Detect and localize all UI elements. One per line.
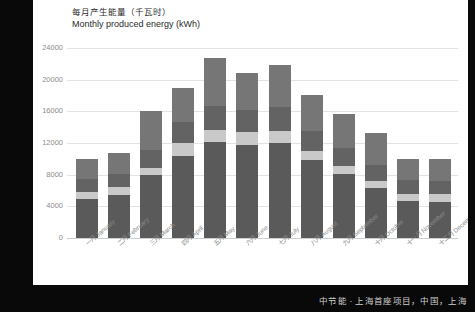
bar-segment bbox=[301, 131, 323, 151]
gridline bbox=[67, 143, 458, 144]
bar-segment bbox=[429, 194, 451, 201]
y-axis-tick-label: 8000 bbox=[33, 170, 63, 179]
gridline bbox=[67, 48, 458, 49]
bar-segment bbox=[397, 159, 419, 180]
bar-segment bbox=[365, 181, 387, 188]
bar-segment bbox=[204, 130, 226, 143]
bar-segment bbox=[365, 165, 387, 181]
bar-segment bbox=[269, 131, 291, 143]
gridline bbox=[67, 111, 458, 112]
bar-segment bbox=[236, 132, 258, 145]
bar-segment bbox=[172, 88, 194, 123]
bar-segment bbox=[140, 175, 162, 238]
bar-segment bbox=[397, 194, 419, 201]
bar-column[interactable] bbox=[172, 88, 194, 238]
bar-segment bbox=[204, 58, 226, 106]
bar-segment bbox=[333, 114, 355, 148]
bar-segment bbox=[301, 151, 323, 161]
bar-segment bbox=[429, 159, 451, 181]
bar-segment bbox=[269, 65, 291, 108]
bar-segment bbox=[301, 95, 323, 131]
bar-segment bbox=[301, 160, 323, 238]
bar-segment bbox=[204, 142, 226, 238]
bar-segment bbox=[397, 180, 419, 193]
bar-column[interactable] bbox=[269, 65, 291, 238]
y-axis-tick-label: 24000 bbox=[33, 43, 63, 52]
bar-segment bbox=[108, 187, 130, 195]
y-axis-tick-label: 16000 bbox=[33, 106, 63, 115]
bar-segment bbox=[429, 181, 451, 194]
bar-segment bbox=[365, 133, 387, 165]
bar-segment bbox=[108, 174, 130, 187]
bar-segment bbox=[333, 148, 355, 166]
bar-segment bbox=[140, 168, 162, 175]
y-axis-tick-label: 12000 bbox=[33, 138, 63, 147]
chart-card: 每月产生能量（千瓦时） Monthly produced energy (kWh… bbox=[33, 0, 468, 285]
y-axis-tick-label: 20000 bbox=[33, 75, 63, 84]
bar-segment bbox=[269, 107, 291, 131]
bar-column[interactable] bbox=[204, 58, 226, 238]
bar-segment bbox=[236, 73, 258, 109]
y-axis-tick-label: 0 bbox=[33, 233, 63, 242]
bar-segment bbox=[140, 150, 162, 167]
bar-column[interactable] bbox=[301, 95, 323, 238]
bar-column[interactable] bbox=[333, 114, 355, 238]
bar-column[interactable] bbox=[76, 159, 98, 238]
bar-segment bbox=[76, 159, 98, 180]
bar-segment bbox=[204, 106, 226, 130]
bar-segment bbox=[172, 122, 194, 143]
bar-segment bbox=[236, 110, 258, 132]
bar-column[interactable] bbox=[236, 73, 258, 238]
bar-segment bbox=[333, 166, 355, 174]
chart-plot-area: 04000800012000160002000024000 一月 January… bbox=[33, 0, 468, 285]
gridline bbox=[67, 80, 458, 81]
bar-segment bbox=[76, 192, 98, 199]
bar-segment bbox=[269, 143, 291, 238]
y-axis-tick-label: 4000 bbox=[33, 201, 63, 210]
bar-segment bbox=[76, 179, 98, 192]
bar-segment bbox=[236, 145, 258, 238]
project-caption: 中节能 · 上海首座项目，中国，上海 bbox=[319, 294, 467, 306]
bar-segment bbox=[140, 111, 162, 150]
bar-segment bbox=[172, 143, 194, 156]
bar-segment bbox=[108, 153, 130, 174]
